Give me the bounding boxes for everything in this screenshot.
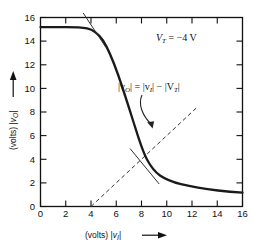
y-axis-title-group: (volts) |vO| [8,71,19,150]
x-tick-label: 0 [38,208,43,219]
y-tick-label: 2 [30,177,35,188]
threshold-rest: = −4 V [166,32,198,43]
eq-part-3: | − |V [152,81,175,92]
eq-part-4: | [178,81,180,92]
equation-pointer-arrow [140,95,151,124]
threshold-annotation: VT = −4 V [156,32,198,45]
y-tick-label: 16 [24,12,35,23]
x-tick-label: 16 [237,208,248,219]
x-axis-units: (volts) [85,230,108,240]
y-axis-units: (volts) [8,127,18,150]
x-tick-labels: 0 2 4 6 8 10 12 14 16 [38,208,248,219]
y-tick-labels: 0 2 4 6 8 10 12 14 16 [24,12,35,212]
y-axis-title: (volts) |vO| [8,110,19,150]
figure-container: 0 2 4 6 8 10 12 14 16 0 2 4 6 8 10 12 14… [0,0,253,250]
y-tick-label: 8 [30,106,35,117]
x-tick-label: 14 [212,208,223,219]
x-tick-label: 12 [187,208,198,219]
x-tick-label: 10 [161,208,172,219]
y-axis-ticks [41,18,47,207]
x-tick-label: 6 [114,208,119,219]
y-tick-label: 12 [24,59,35,70]
y-tick-label: 4 [30,154,35,165]
equation-pointer-arrowhead [147,121,154,128]
x-axis-arrow-head [158,232,167,239]
eq-part-1: |v [118,81,125,92]
x-tick-label: 4 [88,208,93,219]
right-axis-ticks [237,41,243,183]
y-tick-label: 6 [30,130,35,141]
x-axis-title-group: (volts) |vI| [85,230,167,241]
x-axis-ticks [41,201,243,207]
x-tick-label: 2 [63,208,68,219]
y-tick-label: 0 [30,201,35,212]
y-tick-label: 14 [24,35,35,46]
x-tick-label: 8 [139,208,144,219]
plot-frame [41,18,243,207]
x-axis-title: (volts) |vI| [85,230,121,241]
eq-part-2: | = |v [130,81,150,92]
transfer-characteristic-chart: 0 2 4 6 8 10 12 14 16 0 2 4 6 8 10 12 14… [0,0,253,250]
y-tick-label: 10 [24,83,35,94]
asymptote-equation-annotation: |vO| = |vI| − |VT| [118,81,180,94]
y-axis-arrow-head [10,71,17,80]
